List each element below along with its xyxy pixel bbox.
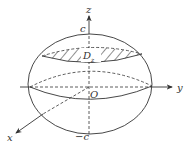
bottom-intercept-label: −c — [75, 131, 89, 142]
x-axis-label: x — [7, 132, 13, 143]
x-axis-arrow — [16, 114, 43, 133]
top-intercept-label: c — [80, 23, 86, 34]
y-axis-label: y — [176, 82, 183, 93]
x-axis-inner — [43, 87, 89, 114]
section-label: D z — [81, 48, 101, 63]
back-ellipse-dashed — [30, 71, 152, 87]
ellipsoid-diagram: z y x O c −c D z — [0, 0, 185, 149]
origin-label: O — [90, 89, 98, 100]
z-axis-label: z — [85, 4, 92, 15]
svg-text:D: D — [82, 50, 91, 61]
